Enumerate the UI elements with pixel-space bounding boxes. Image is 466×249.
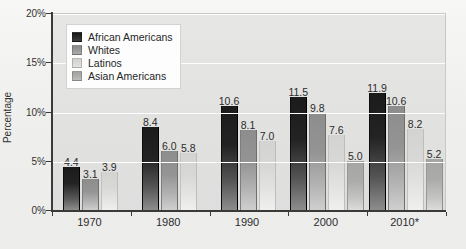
bar-1990-series2 — [259, 141, 276, 210]
bar-2010-series0 — [369, 93, 386, 210]
bar-2000-series3 — [347, 161, 364, 210]
legend-swatch-icon — [72, 71, 82, 81]
legend-item-label: Latinos — [88, 58, 122, 69]
x-tick-mark — [288, 212, 289, 216]
bar-value-label: 7.0 — [260, 130, 275, 142]
x-tick-label: 1990 — [235, 216, 259, 228]
bar-1990-series1 — [240, 130, 257, 210]
bar-2000-series0 — [290, 97, 307, 210]
y-tick-mark — [46, 161, 51, 162]
y-tick-mark — [46, 62, 51, 63]
bar-value-label: 10.6 — [386, 95, 406, 107]
bar-value-label: 8.2 — [408, 118, 423, 130]
bar-value-label: 3.1 — [83, 168, 98, 180]
bar-value-label: 8.1 — [241, 119, 256, 131]
bar-1970-series2 — [101, 172, 118, 210]
x-tick-mark — [367, 212, 368, 216]
x-tick-mark — [446, 212, 447, 216]
y-tick-label: 5% — [32, 155, 46, 166]
legend-item-label: Whites — [88, 45, 120, 56]
x-tick-mark — [52, 212, 53, 216]
legend-item-3: Asian Americans — [72, 70, 173, 82]
x-tick-mark — [131, 212, 132, 216]
legend-swatch-icon — [72, 32, 82, 42]
legend-item-1: Whites — [72, 44, 173, 56]
chart-legend: African AmericansWhitesLatinosAsian Amer… — [66, 24, 181, 89]
bar-value-label: 7.6 — [329, 124, 344, 136]
legend-swatch-icon — [72, 58, 82, 68]
bar-1990-series0 — [221, 106, 238, 210]
gridline — [53, 162, 445, 163]
bar-1980-series1 — [161, 151, 178, 210]
y-tick-label: 20% — [26, 8, 46, 19]
bar-2010-series1 — [388, 106, 405, 210]
y-tick-label: 0% — [32, 205, 46, 216]
bar-2010-series3 — [426, 159, 443, 210]
bar-value-label: 8.4 — [143, 116, 158, 128]
bar-value-label: 6.0 — [162, 140, 177, 152]
bar-2000-series2 — [328, 135, 345, 210]
x-tick-label: 1980 — [156, 216, 180, 228]
bar-value-label: 5.0 — [348, 150, 363, 162]
legend-item-label: African Americans — [88, 32, 173, 43]
bar-value-label: 11.5 — [288, 86, 308, 98]
gridline — [53, 14, 445, 15]
bar-value-label: 10.6 — [219, 95, 239, 107]
bar-1980-series0 — [142, 127, 159, 210]
bar-1970-series0 — [63, 167, 80, 210]
bar-value-label: 5.8 — [181, 142, 196, 154]
legend-item-2: Latinos — [72, 57, 173, 69]
y-tick-label: 15% — [26, 57, 46, 68]
y-tick-mark — [46, 210, 51, 211]
cropped-title — [0, 0, 466, 9]
x-axis-line — [51, 210, 446, 212]
bar-2010-series2 — [407, 129, 424, 210]
legend-item-label: Asian Americans — [88, 71, 166, 82]
bar-value-label: 11.9 — [367, 82, 387, 94]
legend-item-0: African Americans — [72, 31, 173, 43]
gridline — [53, 113, 445, 114]
y-axis-line — [51, 12, 53, 212]
x-tick-label: 2000 — [314, 216, 338, 228]
x-tick-label: 1970 — [77, 216, 101, 228]
x-tick-mark — [210, 212, 211, 216]
y-tick-mark — [46, 13, 51, 14]
y-tick-mark — [46, 112, 51, 113]
bar-value-label: 5.2 — [427, 148, 442, 160]
y-axis-tick-labels: 0%5%10%15%20% — [0, 0, 48, 249]
chart-page: Percentage 0%5%10%15%20% 4.43.13.98.46.0… — [0, 0, 466, 249]
x-tick-label: 2010* — [390, 216, 419, 228]
y-tick-label: 10% — [26, 106, 46, 117]
bar-1970-series1 — [82, 179, 99, 210]
legend-swatch-icon — [72, 45, 82, 55]
